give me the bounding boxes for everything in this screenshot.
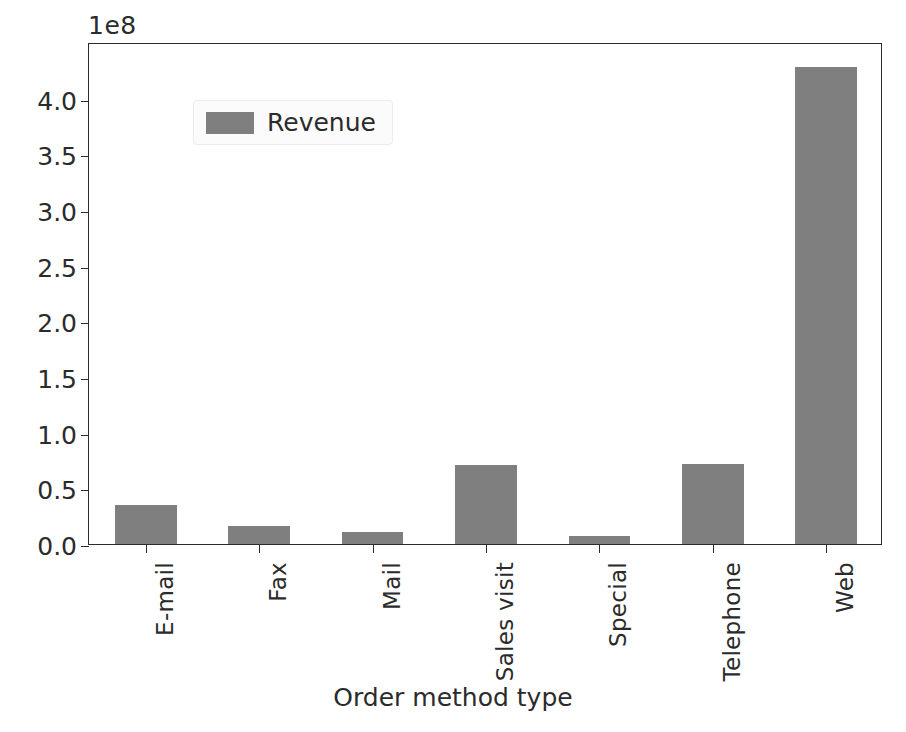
y-tick-label: 2.0 (37, 311, 77, 336)
y-axis-offset-text: 1e8 (88, 12, 137, 39)
y-tick-label: 3.0 (37, 200, 77, 225)
x-tick-mark (713, 544, 714, 553)
bar (569, 536, 631, 544)
x-tick-mark (373, 544, 374, 553)
bar (115, 505, 177, 544)
y-tick-label: 3.5 (37, 144, 77, 169)
y-tick-mark (81, 435, 89, 436)
x-tick-label: Telephone (721, 562, 744, 682)
y-tick-label: 2.5 (37, 255, 77, 280)
x-tick-label: Web (834, 562, 857, 613)
y-tick-label: 4.0 (37, 88, 77, 113)
x-tick-label: Fax (267, 562, 290, 602)
x-tick-label: Mail (381, 562, 404, 610)
bar (795, 67, 857, 545)
x-tick-mark (259, 544, 260, 553)
y-tick-mark (81, 323, 89, 324)
chart-legend: Revenue (193, 100, 393, 145)
x-tick-label: Sales visit (494, 562, 517, 681)
legend-swatch-revenue (206, 112, 254, 134)
x-tick-mark (486, 544, 487, 553)
x-axis-title: Order method type (0, 684, 906, 712)
y-tick-mark (81, 101, 89, 102)
x-tick-label: Special (607, 562, 630, 647)
y-tick-mark (81, 212, 89, 213)
plot-axes: 0.00.51.01.52.02.53.03.54.0 Revenue (88, 43, 882, 545)
x-tick-mark (599, 544, 600, 553)
y-tick-label: 1.5 (37, 367, 77, 392)
bar (455, 465, 517, 544)
bar (228, 526, 290, 544)
bar (342, 532, 404, 544)
legend-label-revenue: Revenue (267, 110, 376, 135)
y-tick-mark (81, 546, 89, 547)
figure-canvas: 1e8 0.00.51.01.52.02.53.03.54.0 Revenue … (0, 0, 906, 732)
x-tick-label: E-mail (154, 562, 177, 636)
y-tick-label: 1.0 (37, 422, 77, 447)
y-tick-mark (81, 379, 89, 380)
y-tick-mark (81, 490, 89, 491)
y-tick-label: 0.5 (37, 478, 77, 503)
x-tick-mark (826, 544, 827, 553)
y-tick-mark (81, 268, 89, 269)
y-tick-label: 0.0 (37, 534, 77, 559)
x-tick-mark (146, 544, 147, 553)
y-tick-mark (81, 156, 89, 157)
bar (682, 464, 744, 544)
